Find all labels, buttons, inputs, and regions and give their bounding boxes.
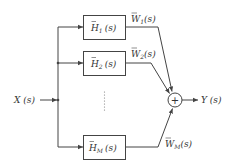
filter-bank-diagram: X (s) H1(s) H2(s) HM(s)	[0, 0, 234, 167]
plus-icon: +	[171, 95, 179, 106]
output-label-2: W2(s)	[131, 49, 156, 60]
summing-junction: +	[168, 93, 182, 107]
filter-block-m: HM(s)	[84, 136, 126, 160]
input-label: X (s)	[13, 95, 35, 105]
output-label-m: WM(s)	[165, 139, 193, 150]
vertical-ellipsis-icon	[104, 91, 105, 110]
filter-block-2: H2(s)	[84, 52, 126, 76]
path-w1	[126, 27, 173, 92]
output-label-1: W1(s)	[131, 14, 156, 25]
output-label: Y (s)	[201, 95, 222, 105]
branch-dot-input	[57, 99, 60, 102]
filter-block-1: H1(s)	[84, 16, 126, 40]
path-w2	[126, 63, 170, 94]
